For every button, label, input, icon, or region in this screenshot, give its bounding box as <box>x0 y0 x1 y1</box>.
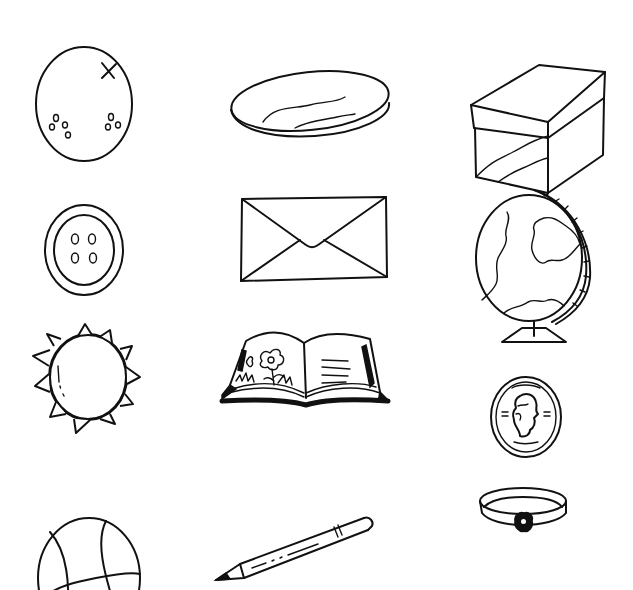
disc-drawing: coin-disc <box>225 65 395 140</box>
pencil-icon <box>212 528 382 588</box>
button-icon <box>42 202 132 302</box>
pencil-drawing: pencil <box>212 528 382 588</box>
book-drawing: open-book <box>218 325 393 410</box>
sun-icon <box>30 322 150 442</box>
button-drawing: button <box>42 202 132 302</box>
ball-drawing: ball <box>36 500 146 590</box>
book-icon <box>218 325 393 410</box>
globe-icon <box>474 188 599 348</box>
orange-drawing: orange <box>30 40 140 170</box>
envelope-drawing: envelope <box>238 195 398 290</box>
globe-drawing: globe <box>474 188 599 348</box>
orange-icon <box>30 40 140 170</box>
disc-icon <box>225 65 395 140</box>
coin-icon <box>490 374 570 464</box>
coin-drawing: coin <box>490 374 570 464</box>
envelope-icon <box>238 195 398 290</box>
ball-outline-icon <box>36 470 146 560</box>
ring-icon <box>478 485 573 545</box>
ring-drawing: ring <box>478 485 573 545</box>
box-icon <box>468 60 608 200</box>
box-drawing: box <box>468 60 608 200</box>
sun-drawing: sun <box>30 322 150 442</box>
